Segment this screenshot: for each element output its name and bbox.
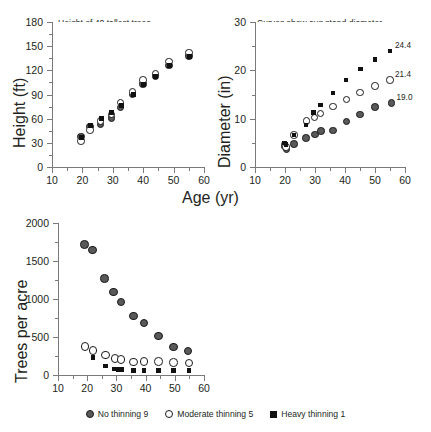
data-point (185, 359, 194, 368)
data-point (154, 332, 163, 341)
x-axis-title-age: Age (yr) (182, 190, 239, 206)
data-point (80, 240, 89, 249)
data-point (356, 111, 364, 119)
y-tick-label: 150 (9, 41, 43, 52)
data-point (358, 67, 363, 72)
y-tick-minor (49, 34, 52, 35)
y-tick-label: 1000 (15, 294, 49, 305)
x-tick-label: 50 (169, 383, 181, 394)
y-tick (47, 119, 52, 120)
y-tick-label: 0 (9, 162, 43, 173)
x-tick-label: 40 (339, 175, 351, 186)
y-tick-minor (49, 82, 52, 83)
y-tick-label: 500 (15, 332, 49, 343)
data-point (109, 288, 118, 297)
data-point (169, 343, 178, 352)
data-point (140, 357, 149, 366)
x-tick-label: 60 (399, 175, 411, 186)
curve-end-label: 19.0 (397, 94, 413, 102)
x-tick-minor (330, 168, 331, 171)
x-tick (52, 168, 53, 173)
data-point (91, 355, 96, 360)
data-point (141, 82, 146, 87)
data-point (388, 99, 396, 107)
y-tick-minor (55, 318, 58, 319)
legend-swatch-circle-filled-icon (86, 410, 94, 418)
x-tick (174, 168, 175, 173)
data-point (140, 319, 149, 328)
legend-swatch-circle-open-icon (165, 410, 173, 418)
x-tick-minor (98, 168, 99, 171)
data-point (119, 103, 124, 108)
x-tick-minor (300, 168, 301, 171)
figure-multipanel-stand-development: Height (ft) Height of 40 tallest trees 0… (0, 0, 431, 432)
data-point (329, 127, 337, 135)
y-tick-label: 60 (9, 113, 43, 124)
x-tick (58, 376, 59, 381)
x-tick (285, 168, 286, 173)
y-tick-label: 2000 (15, 218, 49, 229)
x-tick (116, 376, 117, 381)
x-tick-label: 50 (168, 175, 180, 186)
data-point (153, 74, 158, 79)
data-point (119, 367, 124, 372)
data-point (290, 140, 298, 148)
data-point (343, 96, 351, 104)
x-tick-label: 30 (309, 175, 321, 186)
data-point (167, 63, 172, 68)
x-tick-minor (102, 376, 103, 379)
x-tick-label: 20 (77, 175, 89, 186)
y-tick (47, 143, 52, 144)
y-tick (47, 22, 52, 23)
plot-area-diameter: 010203010203040506024.421.419.0 (255, 22, 405, 167)
x-tick-minor (128, 168, 129, 171)
y-axis-line (255, 22, 256, 168)
curve-end-label: 21.4 (395, 71, 411, 79)
x-tick-label: 10 (52, 383, 64, 394)
data-point (388, 49, 393, 54)
data-point (311, 110, 316, 115)
chart-panel-trees-per-acre: Trees per acre 0500100015002000102030405… (0, 205, 215, 400)
plot-area-trees-per-acre: 0500100015002000102030405060 (58, 223, 204, 375)
y-tick (53, 299, 58, 300)
y-tick-minor (55, 280, 58, 281)
data-point (117, 355, 126, 364)
x-tick-minor (189, 168, 190, 171)
data-point (89, 346, 98, 355)
y-tick-label: 20 (212, 65, 246, 76)
y-tick-label: 90 (9, 89, 43, 100)
x-tick-label: 10 (46, 175, 58, 186)
y-tick-minor (49, 155, 52, 156)
x-tick-label: 30 (107, 175, 119, 186)
chart-panel-diameter: Diameter (in) Curves show avg stand diam… (215, 0, 431, 195)
data-point (304, 123, 309, 128)
data-point (156, 368, 161, 373)
data-point (331, 91, 336, 96)
y-tick-label: 120 (9, 65, 43, 76)
x-tick-label: 40 (137, 175, 149, 186)
y-tick-minor (252, 143, 255, 144)
data-point (187, 368, 192, 373)
x-tick (204, 376, 205, 381)
y-tick-label: 0 (15, 370, 49, 381)
x-tick-label: 60 (198, 175, 210, 186)
y-axis-line (52, 22, 53, 168)
x-tick-minor (67, 168, 68, 171)
y-tick (250, 70, 255, 71)
x-tick (146, 376, 147, 381)
legend-label: No thinning 9 (98, 409, 149, 419)
data-point (184, 347, 193, 356)
data-point (79, 135, 84, 140)
data-point (131, 92, 136, 97)
y-tick (47, 95, 52, 96)
y-tick (53, 223, 58, 224)
data-point (373, 57, 378, 62)
data-point (169, 358, 178, 367)
x-tick-label: 40 (140, 383, 152, 394)
y-tick-label: 180 (9, 17, 43, 28)
x-tick-label: 60 (198, 383, 210, 394)
legend-item: No thinning 9 (86, 409, 149, 419)
data-point (142, 368, 147, 373)
data-point (171, 368, 176, 373)
x-tick-minor (160, 376, 161, 379)
